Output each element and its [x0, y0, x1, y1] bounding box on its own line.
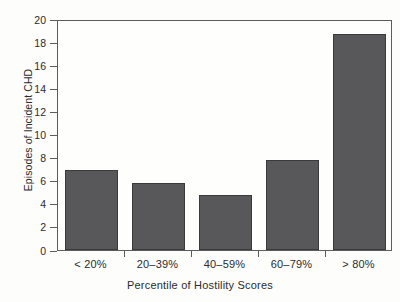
x-axis-tick-label: > 80%: [322, 258, 396, 270]
y-axis-tick: [50, 20, 57, 21]
y-axis-tick: [50, 89, 57, 90]
y-axis-tick: [50, 204, 57, 205]
y-axis-tick: [50, 181, 57, 182]
bar: [199, 195, 253, 250]
y-axis-tick-label: 6: [6, 176, 46, 187]
y-axis-tick-label: 8: [6, 153, 46, 164]
y-axis-tick: [50, 135, 57, 136]
x-axis-tick: [124, 251, 125, 257]
y-axis-tick: [50, 66, 57, 67]
y-axis-tick-label: 12: [6, 107, 46, 118]
x-axis-tick: [191, 251, 192, 257]
y-axis-tick-label: 2: [6, 222, 46, 233]
y-axis-tick-label: 4: [6, 199, 46, 210]
x-axis-tick: [325, 251, 326, 257]
y-axis-tick-label: 14: [6, 84, 46, 95]
y-axis-tick: [50, 43, 57, 44]
y-axis-tick-label: 20: [6, 15, 46, 26]
bar: [132, 183, 186, 250]
y-axis-tick-label: 18: [6, 38, 46, 49]
bars-layer: [58, 21, 391, 250]
y-axis-tick: [50, 251, 57, 252]
y-axis-tick: [50, 112, 57, 113]
x-axis-title: Percentile of Hostility Scores: [0, 279, 400, 291]
x-axis-tick-label: 60–79%: [255, 258, 329, 270]
bar: [333, 34, 387, 250]
x-axis-tick-label: 20–39%: [121, 258, 195, 270]
x-axis-tick: [258, 251, 259, 257]
bar: [266, 160, 320, 250]
x-axis-tick-label: < 20%: [54, 258, 128, 270]
y-axis-tick: [50, 227, 57, 228]
y-axis-tick-label: 0: [6, 246, 46, 257]
bar: [65, 170, 119, 250]
plot-area: [57, 20, 392, 251]
y-axis-tick-label: 16: [6, 61, 46, 72]
chart-figure: Episodes of Incident CHD 024681012141618…: [0, 0, 400, 302]
y-axis-tick: [50, 158, 57, 159]
x-axis-tick-label: 40–59%: [188, 258, 262, 270]
y-axis-tick-label: 10: [6, 130, 46, 141]
